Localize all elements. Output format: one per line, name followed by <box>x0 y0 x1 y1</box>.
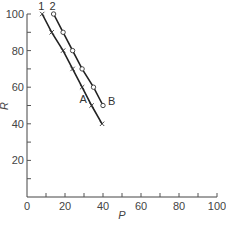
series-end-label: A <box>80 93 88 105</box>
y-axis-label: R <box>0 102 10 110</box>
data-point-o <box>70 48 74 52</box>
y-tick-label: 60 <box>12 81 24 93</box>
x-tick-label: 40 <box>97 200 109 212</box>
x-tick-label: 0 <box>24 200 30 212</box>
series-line <box>54 14 103 106</box>
series-number-label: 1 <box>38 0 44 12</box>
axes: 02040608010020406080100 <box>6 8 226 212</box>
y-tick-label: 100 <box>6 8 24 20</box>
x-tick-label: 20 <box>59 200 71 212</box>
x-tick-label: 100 <box>208 200 226 212</box>
data-point-o <box>51 12 55 16</box>
data-point-o <box>80 67 84 71</box>
data-point-o <box>91 85 95 89</box>
x-tick-label: 60 <box>135 200 147 212</box>
y-tick-label: 40 <box>12 118 24 130</box>
data-point-o <box>101 103 105 107</box>
y-tick-label: 80 <box>12 45 24 57</box>
series-number-label: 2 <box>50 0 56 12</box>
series-end-label: B <box>108 95 115 107</box>
series-layer: 1A2B <box>38 0 115 126</box>
data-point-o <box>61 30 65 34</box>
x-axis-label: P <box>118 209 126 221</box>
series-1: 1A <box>38 0 104 126</box>
chart: 02040608010020406080100 1A2B P R <box>0 0 226 229</box>
y-tick-label: 20 <box>12 154 24 166</box>
x-tick-label: 80 <box>173 200 185 212</box>
